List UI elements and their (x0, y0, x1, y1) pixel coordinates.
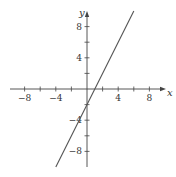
x-tick-label: −4 (49, 93, 63, 103)
axes (10, 11, 166, 167)
x-tick-label: 8 (147, 93, 153, 103)
y-tick-label: 4 (76, 53, 82, 63)
y-tick-label: −8 (69, 146, 83, 156)
coordinate-plane: −8−44884−4−8xy (0, 0, 176, 177)
y-axis-label: y (78, 7, 85, 18)
x-axis-label: x (167, 87, 173, 98)
x-tick-label: −8 (18, 93, 32, 103)
x-axis-arrow-icon (160, 87, 166, 91)
y-axis-arrow-icon (85, 11, 89, 17)
x-tick-label: 4 (115, 93, 121, 103)
y-tick-label: 8 (76, 22, 82, 32)
y-tick-label: −4 (69, 115, 83, 125)
tick-labels: −8−44884−4−8xy (18, 7, 173, 156)
